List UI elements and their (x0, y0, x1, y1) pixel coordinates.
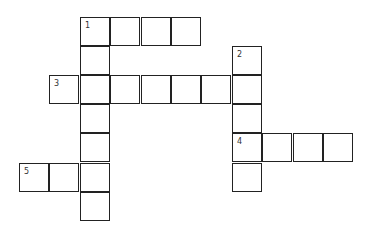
crossword-cell[interactable]: 2 (232, 46, 262, 75)
crossword-cell[interactable] (80, 75, 110, 104)
clue-number: 1 (85, 21, 90, 30)
crossword-cell[interactable] (232, 75, 262, 104)
crossword-cell[interactable] (323, 133, 353, 162)
crossword-cell[interactable] (201, 75, 231, 104)
crossword-cell[interactable] (80, 133, 110, 162)
crossword-cell[interactable]: 1 (80, 17, 110, 46)
clue-number: 4 (237, 137, 242, 146)
crossword-cell[interactable] (49, 163, 79, 192)
crossword-cell[interactable] (232, 104, 262, 133)
crossword-cell[interactable] (110, 75, 140, 104)
crossword-cell[interactable] (171, 17, 201, 46)
crossword-cell[interactable] (80, 46, 110, 75)
crossword-cell[interactable] (80, 192, 110, 221)
clue-number: 2 (237, 50, 242, 59)
clue-number: 5 (24, 167, 29, 176)
crossword-cell[interactable] (110, 17, 140, 46)
crossword-cell[interactable] (141, 75, 171, 104)
crossword-cell[interactable]: 3 (49, 75, 79, 104)
crossword-cell[interactable] (80, 163, 110, 192)
crossword-cell[interactable]: 5 (19, 163, 49, 192)
crossword-cell[interactable] (293, 133, 323, 162)
crossword-cell[interactable] (141, 17, 171, 46)
crossword-grid: 12345 (0, 0, 370, 234)
crossword-cell[interactable] (171, 75, 201, 104)
crossword-cell[interactable] (232, 163, 262, 192)
crossword-cell[interactable] (262, 133, 292, 162)
crossword-cell[interactable] (80, 104, 110, 133)
crossword-cell[interactable]: 4 (232, 133, 262, 162)
clue-number: 3 (54, 79, 59, 88)
